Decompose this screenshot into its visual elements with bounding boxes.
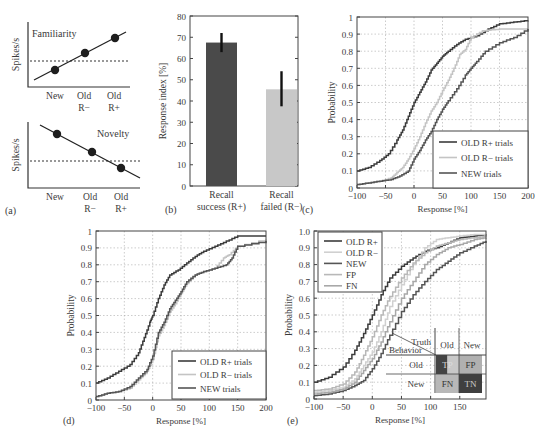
y-tick-label: 30 [177,118,187,128]
figure-canvas: FamiliaritySpikes/sNewOldR−OldR+NoveltyS… [0,0,546,442]
legend-label: OLD R− trials [461,153,514,163]
legend-label: NEW [346,259,367,269]
x-tick-label: 0 [370,402,375,412]
legend-label: OLD R+ trials [200,357,253,367]
y-tick-label: 20 [177,139,187,149]
y-tick-label: 1 [349,13,354,23]
legend: OLD R+OLD R−NEWFPFN [318,232,382,292]
x-tick-label: 150 [453,402,467,412]
x-tick-label: 50 [438,191,448,201]
y-tick-label: 0.6 [299,294,311,304]
x-axis-label: Response [%] [417,204,467,214]
y-tick-label: 50 [177,75,187,85]
row-header: Old [409,360,423,370]
y-tick-label: 0.1 [342,166,353,176]
panel-label-a: (a) [5,205,16,217]
y-tick-label: 0.5 [81,311,93,321]
y-tick-label: 0 [182,182,187,192]
x-axis-label: Response [%] [375,415,425,425]
panel-e-cdf: −100−5005010015000.10.20.30.40.50.60.70.… [284,227,486,426]
confusion-matrix-inset: TPFPFNTNTruthBehaviorOldNewOldNew [386,328,486,393]
x-tick-label: 100 [424,402,438,412]
panel-label-b: (b) [165,204,177,216]
legend-label: OLD R− [346,248,378,258]
column-header: Old [440,340,454,350]
panel-label-e: (e) [287,415,298,427]
category-label: R+ [115,204,127,214]
category-label: Old [83,192,98,202]
y-tick-label: 1.0 [299,227,311,237]
y-tick-label: 0.3 [342,132,354,142]
y-tick-label: 0.4 [81,328,93,338]
y-tick-label: 1 [88,227,93,237]
y-tick-label: 0 [349,184,354,194]
panel-a-familiarity: FamiliaritySpikes/sNewOldR−OldR+ [10,22,130,113]
x-tick-label: −50 [336,402,351,412]
category-label: R− [84,204,96,214]
y-tick-label: 0.9 [81,243,93,253]
category-label: failed (R−) [260,202,302,213]
y-tick-label: 0.7 [81,277,93,287]
cell-label: TN [465,379,477,389]
panel-title: Familiarity [32,28,76,39]
y-tick-label: 0.7 [342,64,354,74]
y-tick-label: 0.2 [342,149,353,159]
column-header: New [464,340,481,350]
y-tick-label: 0.9 [299,243,311,253]
category-label: New [46,192,64,202]
row-header: New [408,379,425,389]
category-label: Old [114,192,129,202]
legend-label: FP [346,270,356,280]
bar [206,43,237,186]
data-point [81,49,89,57]
data-point [117,164,125,172]
legend: OLD R+ trialsOLD R− trialsNEW trials [172,351,266,399]
y-tick-label: 0.1 [81,379,92,389]
panel-label-d: (d) [63,415,75,427]
y-tick-label: 0.1 [299,378,310,388]
y-axis-label: Probability [327,81,337,123]
x-tick-label: 50 [177,403,187,413]
data-point [88,148,96,156]
y-tick-label: 0.9 [342,30,354,40]
y-tick-label: 0.5 [342,98,354,108]
x-tick-label: 150 [493,191,507,201]
panel-b-bar-chart: 01020304050607080Recallsuccess (R+)Recal… [158,12,303,214]
x-tick-label: 150 [231,403,245,413]
y-tick-label: 0.4 [299,327,311,337]
y-tick-label: 0.8 [299,260,311,270]
legend-label: NEW trials [461,169,502,179]
y-tick-label: 0.2 [81,362,92,372]
category-label: success (R+) [197,202,246,213]
panel-label-c: (c) [302,204,313,216]
legend-label: OLD R+ trials [461,138,514,148]
x-tick-label: 0 [412,191,417,201]
y-axis-label: Probability [66,294,76,336]
y-tick-label: 10 [177,160,187,170]
x-tick-label: 100 [203,403,217,413]
data-point [111,34,119,42]
x-tick-label: 0 [150,403,155,413]
legend-label: OLD R+ [346,237,378,247]
behavior-label: Behavior [389,345,422,355]
category-label: New [46,91,64,101]
y-tick-label: 0.6 [81,294,93,304]
y-tick-label: 0.5 [299,311,311,321]
y-axis-label: Response index [%] [158,63,168,140]
y-tick-label: 60 [177,54,187,64]
x-tick-label: 100 [464,191,478,201]
y-tick-label: 0.3 [299,344,311,354]
panel-c-cdf: −100−5005010015020000.10.20.30.40.50.60.… [327,13,535,215]
y-tick-label: 70 [177,33,187,43]
y-tick-label: 0 [88,396,93,406]
y-axis-label: Spikes/s [10,38,21,71]
legend: OLD R+ trialsOLD R− trialsNEW trials [433,131,528,188]
panel-d-cdf: −100−5005010015020000.10.20.30.40.50.60.… [66,227,273,427]
y-tick-label: 0.8 [81,260,93,270]
y-tick-label: 40 [177,97,187,107]
y-tick-label: 0.8 [342,47,354,57]
data-point [53,130,61,138]
y-tick-label: 0.4 [342,115,354,125]
x-tick-label: 200 [521,191,535,201]
y-tick-label: 0 [306,395,311,405]
